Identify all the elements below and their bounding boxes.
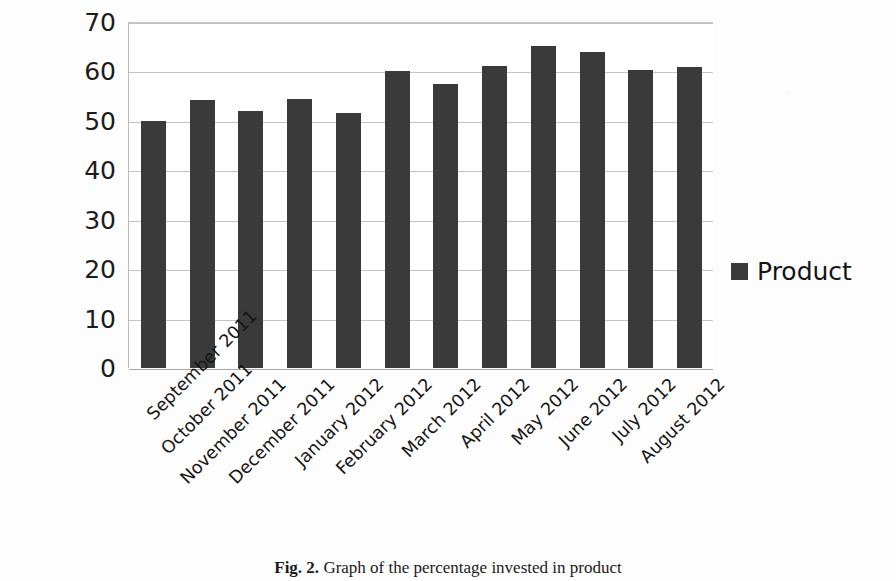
bar-september-2011 [141, 121, 166, 368]
figure-container: 706050403020100 September 2011October 20… [0, 0, 896, 581]
bar-february-2012 [385, 71, 410, 368]
bar-july-2012 [628, 70, 653, 368]
bar-january-2012 [336, 113, 361, 368]
y-tick-label-50: 50 [56, 109, 116, 134]
bar-march-2012 [433, 84, 458, 368]
legend-swatch-product [731, 263, 748, 280]
y-tick-label-60: 60 [56, 59, 116, 84]
bar-august-2012 [677, 67, 702, 368]
x-axis-tick-labels: September 2011October 2011November 2011D… [128, 368, 713, 528]
y-tick-label-30: 30 [56, 208, 116, 233]
chart-plot-area [128, 22, 713, 368]
y-tick-label-40: 40 [56, 158, 116, 183]
y-tick-label-70: 70 [56, 10, 116, 35]
bar-may-2012 [531, 46, 556, 368]
y-tick-label-20: 20 [56, 257, 116, 282]
y-tick-label-10: 10 [56, 307, 116, 332]
bar-april-2012 [482, 66, 507, 368]
bar-october-2011 [190, 100, 215, 368]
bar-series-product [129, 23, 713, 368]
legend-label-product: Product [757, 259, 852, 284]
y-tick-label-0: 0 [56, 356, 116, 381]
bar-june-2012 [580, 52, 605, 368]
figure-caption-text: Graph of the percentage invested in prod… [319, 558, 622, 577]
chart-legend: Product [731, 259, 852, 284]
y-axis-tick-labels: 706050403020100 [48, 22, 116, 368]
figure-caption-number: Fig. 2. [274, 558, 319, 577]
bar-december-2011 [287, 99, 312, 368]
figure-caption: Fig. 2. Graph of the percentage invested… [0, 558, 896, 578]
